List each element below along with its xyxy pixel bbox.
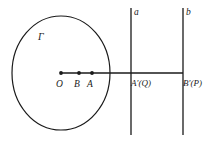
label-point-a-prime: A′(Q) [131,79,151,88]
label-line-a: a [134,8,139,18]
label-line-b: b [186,8,191,18]
figure-canvas [0,0,218,151]
label-point-b-prime: B′(P) [183,79,202,88]
point-marker-b [77,71,81,75]
point-marker-a [90,71,94,75]
label-circle-gamma: Γ [38,32,44,42]
point-marker-o [59,71,63,75]
geometry-figure: Γ O B A a b A′(Q) B′(P) [0,0,218,151]
label-point-b: B [74,80,80,90]
label-point-a: A [87,80,93,90]
label-point-o: O [56,80,63,90]
